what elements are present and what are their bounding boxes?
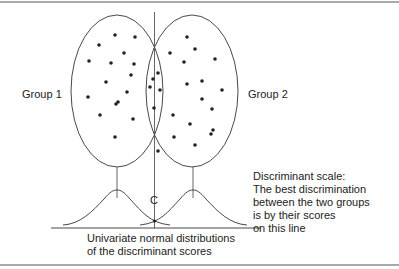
group-1-points (86, 33, 137, 139)
group-1-ellipse (71, 15, 163, 167)
group-1-label: Group 1 (22, 88, 62, 101)
group-2-label: Group 2 (248, 88, 288, 101)
scale-note-line: on this line (253, 222, 370, 235)
scale-note-line: The best discrimination (253, 183, 370, 196)
cutoff-point (153, 219, 156, 222)
distribution-note-line: Univariate normal distributions (87, 232, 235, 245)
cutoff-label: C (150, 194, 158, 207)
distribution-note-line: of the discriminant scores (87, 245, 235, 258)
scale-note-line: between the two groups (253, 196, 370, 209)
group-2-points (168, 35, 224, 147)
discriminant-scale-note: Discriminant scale: The best discriminat… (253, 170, 370, 235)
distribution-note: Univariate normal distributions of the d… (87, 232, 235, 258)
overlap-points (148, 71, 162, 153)
scale-note-line: Discriminant scale: (253, 170, 370, 183)
scale-note-line: is by their scores (253, 209, 370, 222)
